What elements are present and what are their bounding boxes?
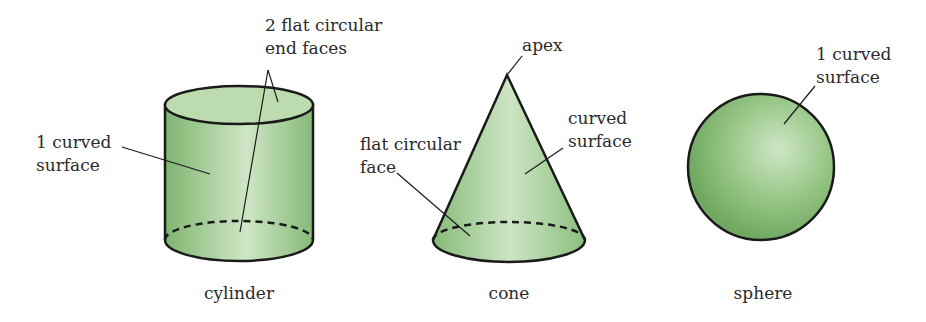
label-line: surface <box>36 155 100 175</box>
solid-shapes-diagram: 1 curvedsurface 2 flat circularend faces… <box>0 0 926 322</box>
label-line: apex <box>522 35 563 55</box>
label-line: end faces <box>265 38 347 58</box>
label-line: surface <box>816 67 880 87</box>
cone-flat-face-label: flat circularface <box>360 133 461 179</box>
cylinder-caption: cylinder <box>169 283 309 303</box>
cone-curved-surface-label: curvedsurface <box>568 107 632 153</box>
label-line: 1 curved <box>816 44 891 64</box>
cylinder-shape <box>122 70 313 261</box>
label-line: face <box>360 157 396 177</box>
sphere-caption: sphere <box>693 283 833 303</box>
label-line: surface <box>568 131 632 151</box>
cylinder-end-faces-label: 2 flat circularend faces <box>265 14 382 60</box>
cone-apex-label: apex <box>522 34 563 57</box>
label-line: flat circular <box>360 134 461 154</box>
cylinder-curved-surface-label: 1 curvedsurface <box>36 131 111 177</box>
label-line: 2 flat circular <box>265 15 382 35</box>
sphere-curved-surface-label: 1 curvedsurface <box>816 43 891 89</box>
label-line: curved <box>568 108 627 128</box>
sphere-shape <box>688 86 834 240</box>
cone-caption: cone <box>439 283 579 303</box>
label-line: 1 curved <box>36 132 111 152</box>
shapes-drawing <box>0 0 926 322</box>
